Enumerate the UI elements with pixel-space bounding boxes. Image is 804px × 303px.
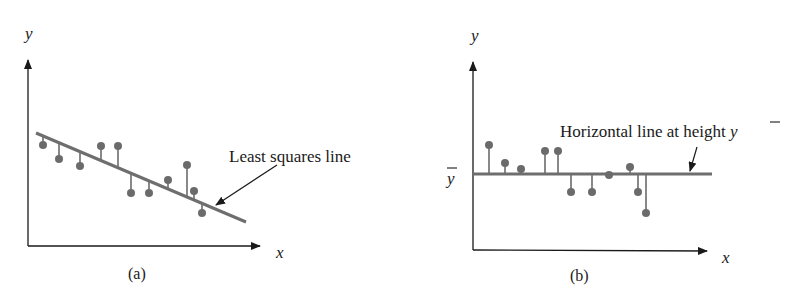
data-point [634, 188, 642, 196]
x-axis-label-b: x [721, 248, 730, 267]
residuals-b [489, 145, 646, 213]
data-point [642, 209, 650, 217]
data-point [501, 159, 509, 167]
data-point [183, 161, 191, 169]
panel-b: y x (b) y Horizontal line at height y [445, 26, 780, 285]
regression-residuals-figure: y x (a) Least squares line y x (b) y Hor… [0, 0, 804, 303]
least-squares-line [36, 133, 246, 222]
data-point [198, 209, 206, 217]
data-point [541, 147, 549, 155]
svg-text:y: y [445, 169, 455, 188]
data-point [588, 188, 596, 196]
data-point [190, 187, 198, 195]
ybar-tick-label: y [445, 168, 457, 188]
horizontal-line-label: Horizontal line at height y [560, 122, 738, 141]
x-axis-b [473, 250, 707, 251]
data-point [485, 141, 493, 149]
least-squares-label: Least squares line [229, 147, 351, 166]
data-point [55, 155, 63, 163]
data-point [517, 165, 525, 173]
x-axis-label-a: x [275, 243, 284, 262]
panel-a: y x (a) Least squares line [23, 24, 351, 283]
data-point [97, 142, 105, 150]
data-point [39, 141, 47, 149]
data-point [567, 188, 575, 196]
arrow-icon-a [216, 165, 277, 205]
y-axis-label-a: y [23, 24, 33, 43]
data-points-b [485, 141, 650, 217]
data-point [114, 142, 122, 150]
data-point [164, 176, 172, 184]
data-point [554, 147, 562, 155]
caption-b: (b) [570, 267, 589, 285]
data-point [127, 189, 135, 197]
y-axis-label-b: y [469, 26, 479, 45]
data-point [605, 171, 613, 179]
caption-a: (a) [128, 265, 146, 283]
arrow-icon-b [690, 147, 697, 171]
data-point [626, 163, 634, 171]
data-points-a [39, 141, 206, 217]
data-point [76, 162, 84, 170]
data-point [145, 189, 153, 197]
